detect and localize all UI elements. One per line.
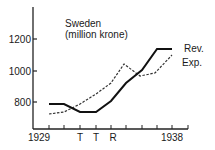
legend-expenditure: Exp. — [182, 57, 202, 68]
series-revenue — [49, 49, 172, 112]
legend-revenue: Rev. — [184, 43, 204, 54]
chart: Sweden (million krone) 1200 1000 800 192… — [0, 0, 215, 150]
x-label-1929: 1929 — [28, 132, 51, 143]
x-label-1938: 1938 — [161, 132, 184, 143]
x-label-t2: T — [93, 132, 99, 143]
y-label-1000: 1000 — [9, 66, 32, 77]
x-label-r: R — [109, 132, 116, 143]
chart-title: Sweden — [65, 18, 101, 29]
y-label-800: 800 — [14, 97, 31, 108]
x-label-t1: T — [77, 132, 83, 143]
y-label-1200: 1200 — [9, 34, 32, 45]
chart-subtitle: (million krone) — [65, 29, 128, 40]
